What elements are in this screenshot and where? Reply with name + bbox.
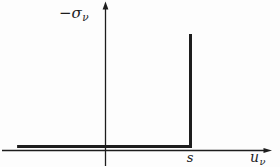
x-axis-label-base: u [250, 149, 259, 165]
y-axis-arrow-icon [103, 2, 109, 10]
x-axis-label: uν [250, 150, 265, 164]
plot-area [0, 0, 280, 167]
y-axis-label-subscript: ν [82, 11, 88, 23]
x-axis-label-subscript: ν [259, 156, 265, 167]
s-tick-label: s [183, 151, 197, 164]
contact-law-curve [17, 34, 190, 147]
y-axis-label: −σν [59, 6, 88, 21]
y-axis-label-base: −σ [59, 4, 82, 22]
figure-canvas: −σν uν s [0, 0, 280, 167]
